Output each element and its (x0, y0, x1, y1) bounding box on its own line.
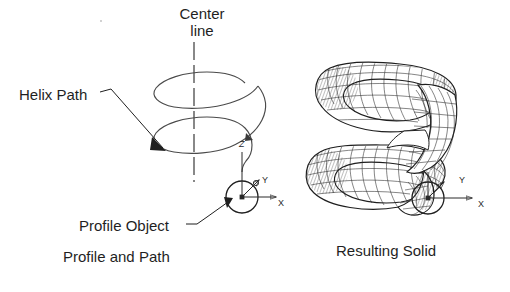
profile-object-label: Profile Object (79, 218, 169, 235)
axis-label-y-left: Y (262, 175, 268, 185)
caption-resulting-solid: Resulting Solid (336, 243, 436, 260)
caption-profile-and-path: Profile and Path (63, 249, 170, 266)
axis-label-x-right: X (478, 199, 484, 209)
helix-path-label: Helix Path (19, 87, 87, 104)
scan-speck (100, 20, 102, 22)
axis-label-y-right: Y (459, 175, 465, 185)
center-line-label: Center line (163, 6, 241, 40)
axis-label-x-left: X (278, 198, 284, 208)
axis-label-z-left: Z (239, 139, 245, 149)
